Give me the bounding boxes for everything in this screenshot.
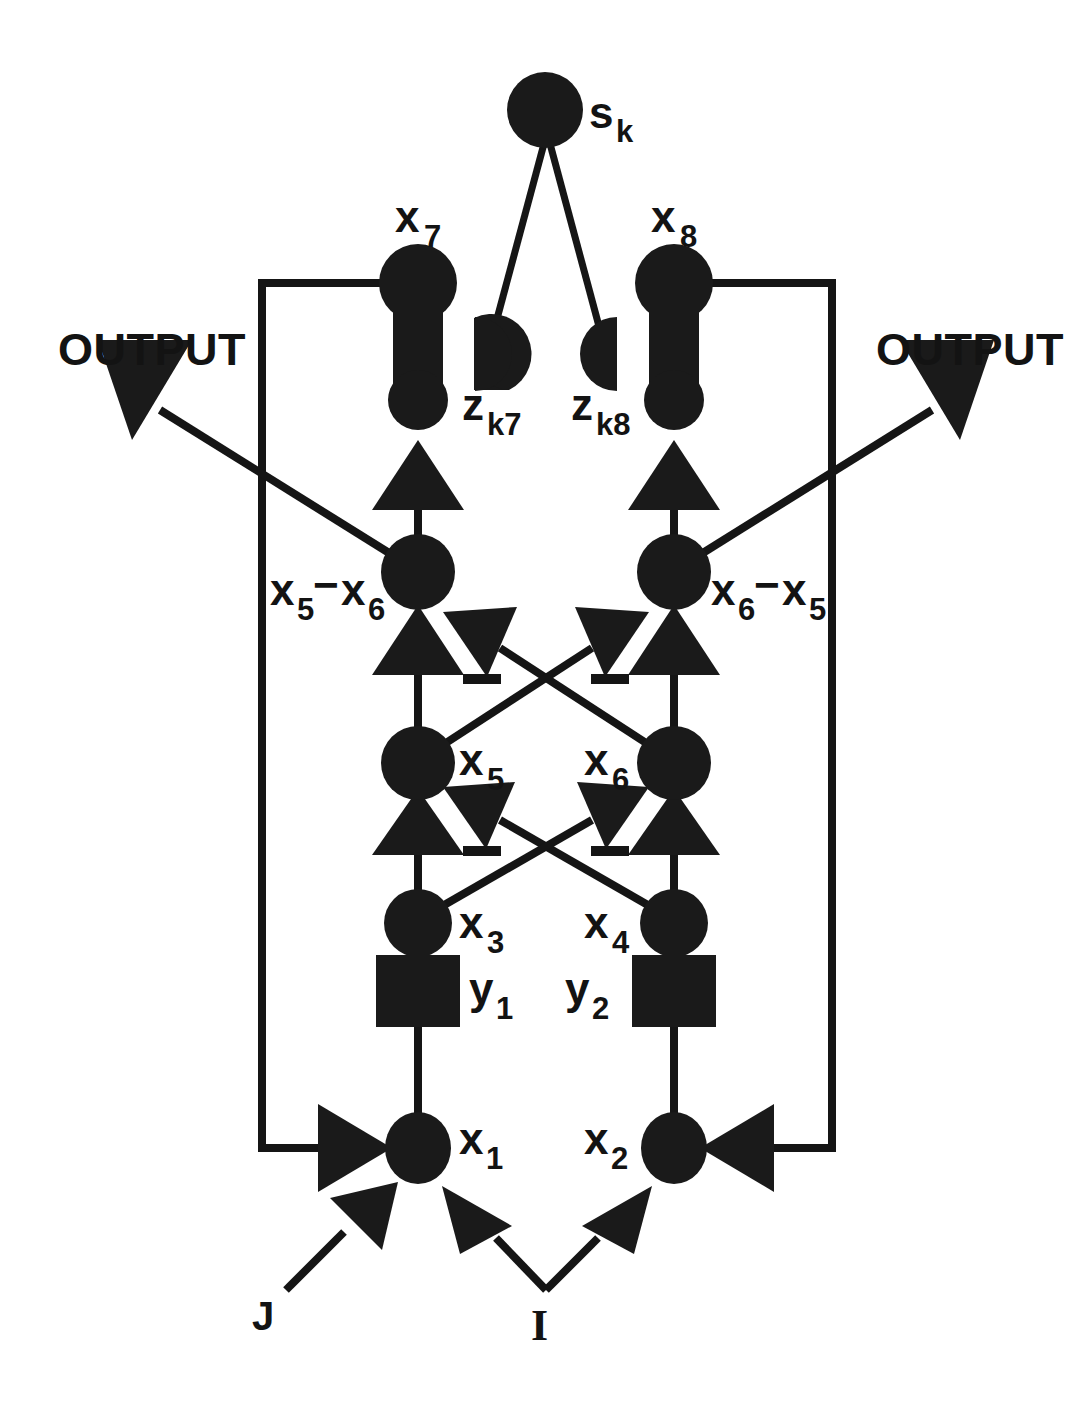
label-y2-subscript: 2	[592, 991, 609, 1026]
node-y1[interactable]	[376, 955, 460, 1027]
label-x3-subscript: 3	[487, 925, 504, 960]
label-sk-base: s	[589, 88, 613, 137]
label-x5minusx6-operator: −	[313, 560, 339, 609]
label-x8-base: x	[651, 192, 676, 241]
label-x4-subscript: 4	[612, 925, 630, 960]
label-y1: y 1	[469, 964, 513, 1026]
edge-input-i-to-x2	[546, 1186, 652, 1290]
label-x6minusx5: x 6 − x 5	[711, 560, 826, 627]
node-x2[interactable]	[641, 1112, 707, 1184]
label-x2-subscript: 2	[611, 1141, 628, 1176]
node-x5minusx6[interactable]	[381, 534, 455, 610]
label-x1: x 1	[459, 1114, 503, 1176]
label-zk7-base: z	[462, 380, 484, 429]
label-input-i: I	[531, 1301, 548, 1350]
label-x8-subscript: 8	[680, 219, 697, 254]
label-output-left: OUTPUT	[58, 324, 246, 375]
node-x3[interactable]	[384, 889, 452, 957]
arrowhead-x6minusx5-x8	[628, 440, 720, 510]
label-x6minusx5-right-base: x	[782, 565, 807, 614]
node-x1[interactable]	[385, 1112, 451, 1184]
node-x6minusx5[interactable]	[637, 534, 711, 610]
label-x5-subscript: 5	[487, 762, 504, 797]
minus-sign-lower-right	[591, 846, 629, 856]
label-x2: x 2	[584, 1114, 628, 1176]
label-x5minusx6-right-base: x	[341, 565, 366, 614]
label-y2: y 2	[565, 964, 609, 1026]
circuit-diagram-svg: s k x 7 x 8 z k7 z k8 x 5 − x 6 x 6 − x …	[0, 0, 1091, 1402]
label-x5minusx6-right-sub: 6	[368, 592, 385, 627]
node-x5[interactable]	[381, 726, 455, 800]
label-zk8: z k8	[571, 380, 630, 442]
label-sk: s k	[589, 88, 634, 149]
label-x5-base: x	[459, 735, 484, 784]
node-x4[interactable]	[640, 889, 708, 957]
label-x5minusx6-left-base: x	[270, 565, 295, 614]
label-zk8-subscript: k8	[596, 407, 630, 442]
arrowhead-x5minusx6-x7	[372, 440, 464, 510]
label-zk8-base: z	[571, 380, 593, 429]
label-x6-subscript: 6	[612, 762, 629, 797]
label-x6minusx5-left-sub: 6	[738, 592, 755, 627]
label-y2-base: y	[565, 964, 590, 1013]
edge-input-i-to-x1	[442, 1186, 546, 1290]
label-x5minusx6-left-sub: 5	[297, 592, 314, 627]
node-sk[interactable]	[507, 72, 583, 148]
arrowhead-feedback-left	[318, 1104, 392, 1192]
circuit-diagram-canvas: s k x 7 x 8 z k7 z k8 x 5 − x 6 x 6 − x …	[0, 0, 1091, 1402]
label-x2-base: x	[584, 1114, 609, 1163]
label-x3: x 3	[459, 898, 504, 960]
label-output-right: OUTPUT	[876, 324, 1064, 375]
label-x7-subscript: 7	[424, 219, 441, 254]
label-x6-base: x	[584, 735, 609, 784]
label-x1-subscript: 1	[486, 1141, 503, 1176]
label-y1-base: y	[469, 964, 494, 1013]
label-x7-base: x	[395, 192, 420, 241]
node-x8[interactable]	[635, 244, 713, 430]
label-x6minusx5-left-base: x	[711, 565, 736, 614]
node-x6[interactable]	[637, 726, 711, 800]
edge-sk-to-zk8	[549, 140, 600, 330]
node-y2[interactable]	[632, 955, 716, 1027]
label-y1-subscript: 1	[496, 991, 513, 1026]
edge-sk-to-zk7	[494, 140, 545, 330]
label-x6minusx5-operator: −	[754, 560, 780, 609]
minus-sign-upper-left	[463, 674, 501, 684]
minus-sign-upper-right	[591, 674, 629, 684]
label-x4: x 4	[584, 898, 630, 960]
label-x6minusx5-right-sub: 5	[809, 592, 826, 627]
arrowhead-feedback-right	[700, 1104, 774, 1192]
label-sk-subscript: k	[616, 114, 634, 149]
edge-input-j-to-x1	[286, 1182, 398, 1290]
label-input-j: J	[252, 1294, 274, 1338]
label-x1-base: x	[459, 1114, 484, 1163]
label-x3-base: x	[459, 898, 484, 947]
label-x4-base: x	[584, 898, 609, 947]
minus-sign-lower-left	[463, 846, 501, 856]
label-zk7-subscript: k7	[487, 407, 521, 442]
label-x5minusx6: x 5 − x 6	[270, 560, 385, 627]
node-x7[interactable]	[379, 244, 457, 430]
